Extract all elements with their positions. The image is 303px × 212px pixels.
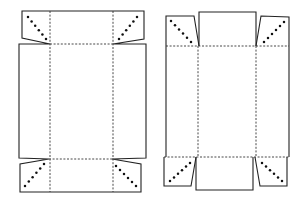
gusset-dot [169, 180, 172, 183]
gusset-dot [273, 173, 276, 176]
gusset-dot [115, 165, 118, 168]
cut-edge [196, 157, 253, 190]
gusset-dot [41, 33, 44, 36]
gusset-dot [125, 29, 128, 32]
gusset-dot [131, 181, 134, 184]
gusset-dot [178, 28, 181, 31]
gusset-dot [35, 172, 38, 175]
gusset-dot [185, 165, 188, 168]
gusset-dot [177, 173, 180, 176]
gusset-dot [43, 163, 46, 166]
cut-edge [256, 16, 289, 46]
gusset-dot [136, 16, 139, 19]
gusset-dot [277, 176, 280, 179]
gusset-dot [135, 185, 138, 188]
gusset-dot [174, 24, 177, 27]
gusset-dot [170, 20, 173, 23]
gusset-dot [283, 21, 286, 24]
gusset-dot [182, 32, 185, 35]
gusset-dot [271, 33, 274, 36]
gusset-dot [190, 41, 193, 44]
gusset-dot [129, 25, 132, 28]
figure-title: Box nets with corner gusset fold flaps [0, 211, 1, 212]
gusset-dot [269, 169, 272, 172]
gusset-dot [279, 25, 282, 28]
gusset-dot [27, 16, 30, 19]
gusset-dot [31, 176, 34, 179]
gusset-dot [267, 37, 270, 40]
gusset-dot [121, 33, 124, 36]
gusset-dot [28, 180, 31, 183]
gusset-dot [261, 162, 264, 165]
cut-edge [199, 12, 256, 46]
gusset-dot [119, 169, 122, 172]
cut-edge [164, 157, 196, 186]
gusset-dot [30, 20, 32, 23]
gusset-dot [181, 169, 184, 172]
gusset-dot [275, 29, 278, 32]
cut-edge [19, 11, 146, 192]
box-nets-diagram [0, 0, 303, 212]
gusset-dot [34, 25, 37, 28]
gusset-dot [127, 177, 130, 180]
box-net-right [164, 12, 289, 190]
gusset-dot [39, 167, 42, 170]
gusset-dot [38, 29, 41, 32]
gusset-dot [186, 37, 189, 40]
gusset-dot [263, 41, 266, 44]
gusset-dot [265, 165, 268, 168]
gusset-dot [173, 176, 176, 179]
gusset-dot [45, 38, 48, 41]
gusset-dot [189, 162, 192, 165]
gusset-dot [118, 38, 121, 41]
box-net-left [19, 11, 146, 192]
gusset-dot [24, 185, 27, 188]
gusset-dot [132, 20, 135, 23]
gusset-dot [123, 173, 126, 176]
gusset-dot [281, 180, 284, 183]
